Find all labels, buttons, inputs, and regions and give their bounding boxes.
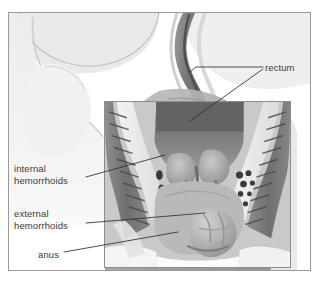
- label-anus: anus: [38, 249, 59, 261]
- figure-frame: [8, 12, 311, 271]
- label-external-hemorrhoids: external hemorrhoids: [14, 208, 68, 231]
- magnified-inset-panel: [104, 101, 291, 268]
- inset-anatomy-illustration: [105, 102, 290, 267]
- label-rectum: rectum: [265, 62, 295, 74]
- label-internal-hemorrhoids: internal hemorrhoids: [14, 163, 68, 186]
- hemorrhoids-figure: rectum internal hemorrhoids external hem…: [0, 0, 321, 284]
